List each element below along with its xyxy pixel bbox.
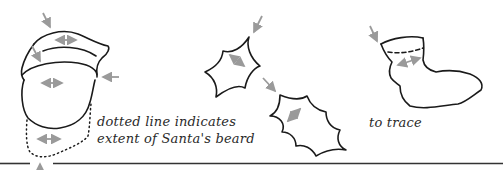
holly-small-arrows (230, 16, 275, 91)
stocking (381, 37, 482, 108)
hat-band-upper (43, 47, 96, 56)
pattern-figure: dotted line indicates extent of Santa's … (0, 0, 503, 170)
double-arrow-icon (288, 109, 300, 121)
trace-caption: to trace (369, 114, 422, 131)
face-outline (22, 80, 95, 129)
hat-top-outline (34, 32, 109, 75)
arrow-icon (370, 26, 377, 41)
beard-caption: dotted line indicates extent of Santa's … (97, 113, 255, 147)
stocking-outline (381, 38, 482, 108)
holly-leaf-large (270, 95, 346, 156)
arrow-icon (254, 16, 262, 32)
stocking-fold-dashed (388, 48, 423, 53)
beard-dotted-outline (26, 104, 91, 157)
beard-caption-line1: dotted line indicates (97, 113, 255, 130)
arrow-icon (32, 46, 40, 61)
stocking-arrows (370, 26, 420, 65)
double-arrow-icon (398, 58, 420, 65)
holly-large-arrows (288, 109, 300, 121)
hat-brim (22, 62, 97, 77)
holly-leaf-small (205, 37, 260, 97)
arrow-icon (43, 13, 50, 27)
beard-caption-line2: extent of Santa's beard (97, 130, 255, 147)
arrow-icon (263, 78, 275, 91)
double-arrow-icon (230, 55, 244, 66)
stocking-cuff-top (381, 37, 423, 44)
